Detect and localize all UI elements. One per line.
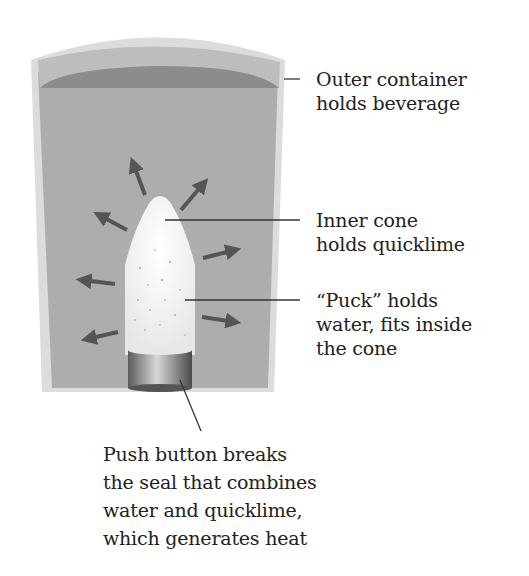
label-outer-container: Outer container holds beverage (316, 67, 467, 115)
label-push-button: Push button breaks the seal that combine… (103, 440, 317, 552)
label-puck: “Puck” holds water, fits inside the cone (316, 288, 472, 360)
label-inner-cone: Inner cone holds quicklime (316, 208, 465, 256)
